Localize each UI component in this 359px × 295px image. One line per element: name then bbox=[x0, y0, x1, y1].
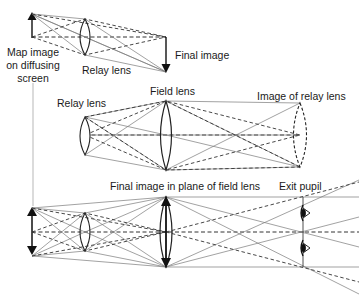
field-lens-label: Field lens bbox=[150, 85, 195, 98]
map-image-label-line3: screen bbox=[17, 72, 49, 85]
final-image-label: Final image bbox=[175, 49, 229, 62]
object-double-arrow-icon bbox=[27, 207, 37, 255]
relay-lens-icon bbox=[80, 117, 90, 155]
map-image-label-line1: Map image bbox=[7, 46, 59, 59]
diagram-canvas bbox=[0, 0, 359, 295]
relay-lens-label-middle: Relay lens bbox=[57, 97, 106, 110]
eye-icon bbox=[301, 205, 310, 221]
relay-lens-label-top: Relay lens bbox=[82, 64, 131, 77]
optical-diagram: Map image on diffusing screen Relay lens… bbox=[0, 0, 359, 295]
exit-pupil-label: Exit pupil bbox=[279, 180, 322, 193]
image-of-relay-lens-label: Image of relay lens bbox=[257, 90, 346, 103]
final-image-arrow-icon bbox=[162, 37, 171, 73]
map-image-label-line2: on diffusing bbox=[6, 59, 60, 72]
middle-panel bbox=[80, 101, 307, 170]
object-arrow-icon bbox=[28, 12, 37, 38]
solid-rays-right bbox=[166, 180, 359, 294]
bottom-panel bbox=[27, 180, 359, 294]
eye-icon bbox=[301, 240, 310, 256]
final-image-in-plane-label: Final image in plane of field lens bbox=[110, 180, 260, 193]
